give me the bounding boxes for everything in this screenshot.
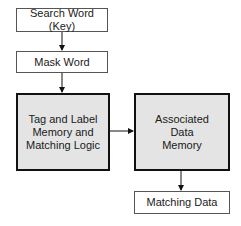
matching-data-node: Matching Data	[134, 191, 230, 214]
mask-word-node: Mask Word	[16, 51, 108, 73]
search-word-node: Search Word (Key)	[16, 8, 108, 32]
search-word-label: Search Word (Key)	[17, 7, 107, 33]
associated-data-memory-label: Associated Data Memory	[155, 113, 209, 152]
tag-label-memory-node: Tag and Label Memory and Matching Logic	[16, 93, 110, 171]
matching-data-label: Matching Data	[147, 196, 218, 209]
mask-word-label: Mask Word	[34, 56, 89, 69]
associated-data-memory-node: Associated Data Memory	[134, 93, 230, 171]
tag-label-memory-label: Tag and Label Memory and Matching Logic	[26, 113, 100, 152]
